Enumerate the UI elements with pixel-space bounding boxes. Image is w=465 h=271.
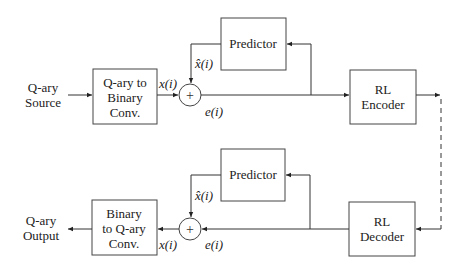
rl-decoder-line2: Decoder: [360, 229, 405, 244]
xhat-signal-label-decoder: x̂(i): [194, 188, 213, 203]
predictor-label: Predictor: [229, 36, 277, 51]
x-signal-label: x(i): [158, 76, 177, 91]
output-label-line2: Output: [23, 228, 60, 243]
xhat-signal-label: x̂(i): [194, 56, 213, 71]
decoder-section: RL Decoder e(i) Predictor x̂(i) + x(i) B…: [23, 149, 441, 256]
e-signal-label: e(i): [205, 104, 223, 119]
predictor-feedback-arrow-decoder: [286, 175, 310, 229]
predictor-feedback-arrow: [287, 44, 311, 95]
predictor-label-decoder: Predictor: [229, 167, 277, 182]
source-label-line1: Q-ary: [28, 80, 59, 95]
plus-icon-decoder: +: [186, 222, 194, 237]
qary-to-binary-line1: Q-ary to: [103, 75, 147, 90]
plus-icon: +: [186, 88, 194, 103]
binary-to-qary-line2: to Q-ary: [102, 221, 146, 236]
block-diagram: Q-ary Source Q-ary to Binary Conv. x(i) …: [0, 0, 465, 271]
output-label-line1: Q-ary: [26, 213, 57, 228]
binary-to-qary-line1: Binary: [106, 206, 142, 221]
source-label-line2: Source: [25, 95, 61, 110]
qary-to-binary-line3: Conv.: [110, 105, 141, 120]
rl-encoder-line1: RL: [375, 82, 392, 97]
rl-decoder-line1: RL: [374, 214, 391, 229]
binary-to-qary-line3: Conv.: [109, 236, 140, 251]
encoder-section: Q-ary Source Q-ary to Binary Conv. x(i) …: [25, 18, 440, 124]
qary-to-binary-line2: Binary: [107, 90, 143, 105]
e-signal-label-decoder: e(i): [205, 237, 223, 252]
rl-encoder-line2: Encoder: [361, 97, 405, 112]
x-signal-label-decoder: x(i): [158, 237, 177, 252]
